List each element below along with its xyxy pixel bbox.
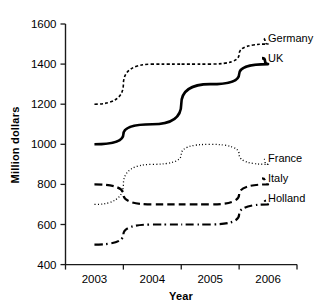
series-line-uk [94,58,268,144]
y-tick-label: 1200 [31,98,57,110]
x-tick-label: 2006 [255,273,281,285]
y-tick-marks [61,24,66,265]
series-label-france: France [268,152,302,164]
line-chart: 4006008001000120014001600 20032004200520… [0,0,323,306]
series-label-uk: UK [268,52,284,64]
series-lines [94,38,268,245]
series-line-france [94,144,268,204]
series-label-germany: Germany [268,32,314,44]
y-tick-labels: 4006008001000120014001600 [31,18,57,271]
y-tick-label: 1400 [31,58,57,70]
y-tick-label: 800 [37,178,56,190]
y-tick-label: 600 [37,219,56,231]
x-tick-label: 2004 [140,273,166,285]
chart-canvas: 4006008001000120014001600 20032004200520… [0,0,323,306]
y-axis-title: Million dollars [9,107,21,184]
y-tick-label: 400 [37,259,56,271]
series-label-italy: Italy [268,172,289,184]
series-label-holland: Holland [268,192,305,204]
series-labels: GermanyUKFranceItalyHolland [268,32,314,204]
x-tick-labels: 2003200420052006 [82,273,281,285]
x-axis-title: Year [169,290,194,302]
x-tick-label: 2005 [197,273,223,285]
y-tick-label: 1600 [31,18,57,30]
series-line-italy [94,178,268,204]
series-line-germany [94,38,268,104]
x-tick-marks [66,265,298,270]
x-tick-label: 2003 [82,273,108,285]
chart-axes [61,24,298,270]
y-tick-label: 1000 [31,138,57,150]
